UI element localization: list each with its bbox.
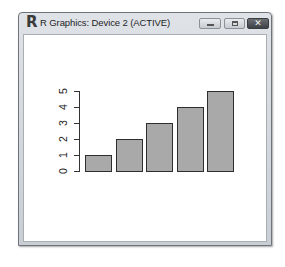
y-tick bbox=[74, 171, 79, 172]
bar-2 bbox=[116, 139, 143, 172]
maximize-button[interactable] bbox=[224, 18, 245, 29]
minimize-button[interactable] bbox=[199, 18, 221, 29]
bar-4 bbox=[177, 107, 204, 172]
maximize-icon bbox=[232, 21, 238, 26]
bar-5 bbox=[207, 91, 234, 172]
bar-1 bbox=[85, 155, 112, 172]
r-graphics-window: R R Graphics: Device 2 (ACTIVE) ✕ 012345 bbox=[18, 12, 272, 246]
y-tick-label: 2 bbox=[57, 133, 69, 145]
y-axis-line bbox=[79, 91, 80, 172]
y-tick-label: 0 bbox=[57, 165, 69, 177]
graphics-device-canvas: 012345 bbox=[23, 34, 267, 242]
y-tick bbox=[74, 91, 79, 92]
close-icon: ✕ bbox=[254, 19, 262, 28]
y-tick bbox=[74, 155, 79, 156]
close-button[interactable]: ✕ bbox=[247, 18, 269, 29]
y-tick-label: 5 bbox=[57, 85, 69, 97]
title-bar[interactable]: R R Graphics: Device 2 (ACTIVE) ✕ bbox=[19, 13, 271, 34]
y-tick-label: 3 bbox=[57, 117, 69, 129]
minimize-icon bbox=[207, 24, 214, 26]
bar-3 bbox=[146, 123, 173, 172]
bar-chart: 012345 bbox=[24, 35, 266, 241]
window-title: R Graphics: Device 2 (ACTIVE) bbox=[40, 17, 170, 28]
y-tick-label: 4 bbox=[57, 101, 69, 113]
r-logo-icon: R bbox=[26, 16, 37, 29]
y-tick bbox=[74, 139, 79, 140]
y-tick-label: 1 bbox=[57, 149, 69, 161]
y-tick bbox=[74, 123, 79, 124]
y-tick bbox=[74, 107, 79, 108]
